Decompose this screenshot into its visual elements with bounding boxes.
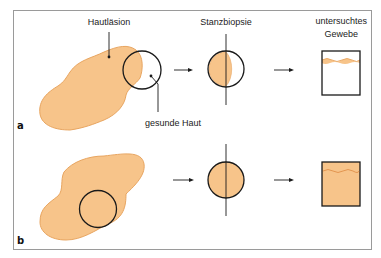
healthy-skin-label: gesunde Haut xyxy=(145,118,202,128)
tissue-label-2: Gewebe xyxy=(324,29,358,39)
lesion-label: Hautläsion xyxy=(88,17,131,27)
tissue-label-1: untersuchtes xyxy=(315,16,367,26)
lesion-pointer-dot xyxy=(108,56,111,59)
panel-label-a: a xyxy=(17,120,24,131)
biopsy-diagram: Hautläsion gesunde Haut Stanzbiopsie unt… xyxy=(0,0,381,258)
panel-label-b: b xyxy=(17,235,24,246)
punch-label: Stanzbiopsie xyxy=(200,17,252,27)
tissue-box-b xyxy=(322,162,360,206)
